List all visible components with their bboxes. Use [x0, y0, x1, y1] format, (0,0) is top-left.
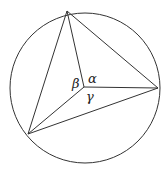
side-top-right	[67, 11, 158, 88]
angle-label-beta: β	[71, 76, 80, 91]
segment-center-right	[84, 87, 158, 88]
angle-label-alpha: α	[88, 71, 97, 86]
angle-label-gamma: γ	[86, 89, 94, 104]
inscribed-triangle-diagram: β α γ	[0, 0, 168, 171]
side-lowerleft-top	[28, 11, 67, 134]
segment-center-lowerleft	[28, 87, 84, 134]
